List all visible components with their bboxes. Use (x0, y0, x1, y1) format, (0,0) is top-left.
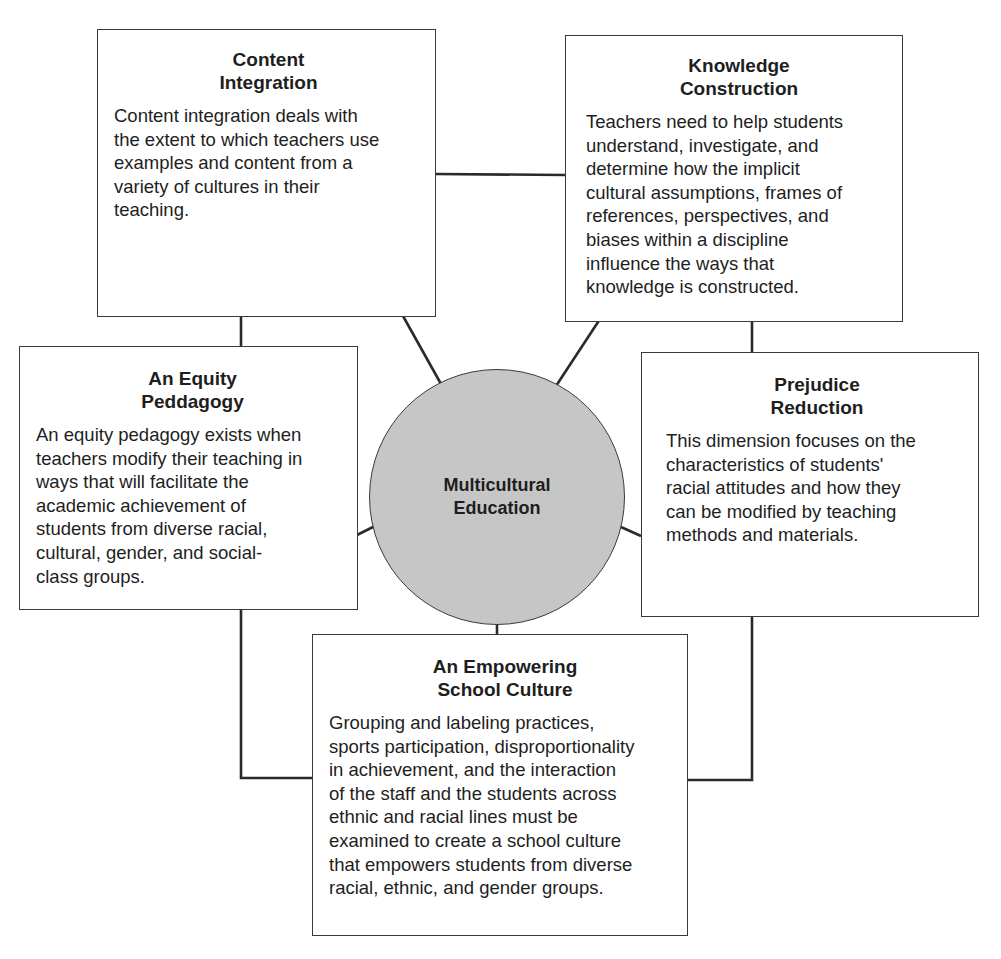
title-line: Integration (114, 71, 423, 94)
title-line: Construction (586, 77, 892, 100)
body-line: ethnic and racial lines must be (329, 805, 681, 829)
box-title: An Empowering School Culture (329, 655, 681, 701)
title-line: Knowledge (586, 54, 892, 77)
title-line: Content (114, 48, 423, 71)
box-body: Grouping and labeling practices, sports … (329, 711, 681, 900)
body-line: examined to create a school culture (329, 829, 681, 853)
box-title: Content Integration (114, 48, 423, 94)
body-line: the extent to which teachers use (114, 128, 423, 152)
box-knowledge-construction: Knowledge Construction Teachers need to … (565, 35, 903, 322)
body-line: that empowers students from diverse (329, 853, 681, 877)
box-title: Prejudice Reduction (666, 373, 968, 419)
body-line: references, perspectives, and (586, 204, 892, 228)
body-line: racial attitudes and how they (666, 476, 968, 500)
box-body: This dimension focuses on the characteri… (666, 429, 968, 547)
body-line: cultural, gender, and social- (36, 541, 349, 565)
body-line: Teachers need to help students (586, 110, 892, 134)
body-line: determine how the implicit (586, 157, 892, 181)
body-line: This dimension focuses on the (666, 429, 968, 453)
body-line: class groups. (36, 565, 349, 589)
body-line: methods and materials. (666, 523, 968, 547)
body-line: sports participation, disproportionality (329, 735, 681, 759)
body-line: can be modified by teaching (666, 500, 968, 524)
body-line: of the staff and the students across (329, 782, 681, 806)
center-hub-multicultural-education: Multicultural Education (369, 369, 625, 625)
hub-label-line: Education (453, 497, 540, 520)
connector-pr-esc (687, 616, 752, 780)
title-line: An Empowering (329, 655, 681, 678)
body-line: characteristics of students' (666, 453, 968, 477)
connector-ci-hub (403, 316, 441, 384)
box-empowering-school-culture: An Empowering School Culture Grouping an… (312, 634, 688, 936)
body-line: understand, investigate, and (586, 134, 892, 158)
body-line: students from diverse racial, (36, 517, 349, 541)
title-line: Prejudice (666, 373, 968, 396)
connector-pr-hub (621, 527, 641, 536)
box-content-integration: Content Integration Content integration … (97, 29, 436, 317)
title-line: Reduction (666, 396, 968, 419)
body-line: ways that will facilitate the (36, 470, 349, 494)
body-line: influence the ways that (586, 252, 892, 276)
body-line: racial, ethnic, and gender groups. (329, 876, 681, 900)
connector-kc-hub (556, 319, 600, 386)
connector-ci-kc (435, 174, 565, 175)
box-prejudice-reduction: Prejudice Reduction This dimension focus… (641, 352, 979, 617)
title-line: School Culture (329, 678, 681, 701)
body-line: Content integration deals with (114, 104, 423, 128)
box-body: An equity pedagogy exists when teachers … (36, 423, 349, 588)
body-line: teaching. (114, 198, 423, 222)
box-title: Knowledge Construction (586, 54, 892, 100)
box-title: An Equity Peddagogy (36, 367, 349, 413)
body-line: examples and content from a (114, 151, 423, 175)
connector-ep-esc (241, 609, 312, 778)
body-line: in achievement, and the interaction (329, 758, 681, 782)
box-body: Teachers need to help students understan… (586, 110, 892, 299)
body-line: biases within a discipline (586, 228, 892, 252)
body-line: An equity pedagogy exists when (36, 423, 349, 447)
body-line: knowledge is constructed. (586, 275, 892, 299)
body-line: Grouping and labeling practices, (329, 711, 681, 735)
body-line: teachers modify their teaching in (36, 447, 349, 471)
title-line: Peddagogy (36, 390, 349, 413)
body-line: academic achievement of (36, 494, 349, 518)
box-equity-pedagogy: An Equity Peddagogy An equity pedagogy e… (19, 346, 358, 610)
body-line: variety of cultures in their (114, 175, 423, 199)
box-body: Content integration deals with the exten… (114, 104, 423, 222)
title-line: An Equity (36, 367, 349, 390)
hub-label-line: Multicultural (444, 474, 551, 497)
body-line: cultural assumptions, frames of (586, 181, 892, 205)
